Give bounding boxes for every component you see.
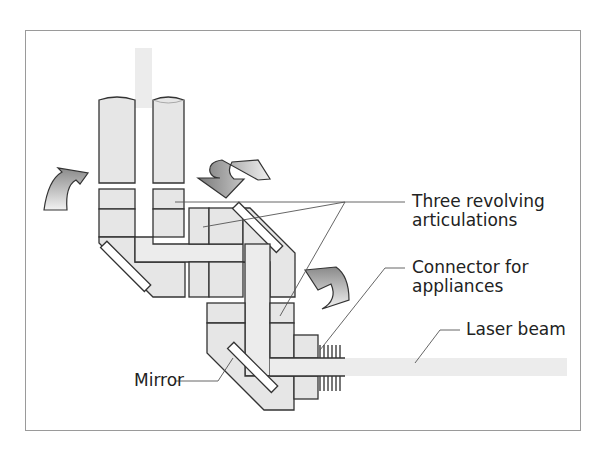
- top-cylinders: [99, 97, 184, 183]
- label-connector-line2: appliances: [412, 277, 528, 296]
- joint-1: [99, 189, 184, 237]
- rotation-arrow-icon: [44, 168, 88, 210]
- label-articulations-line2: articulations: [412, 211, 545, 230]
- label-articulations-line1: Three revolving: [412, 192, 545, 211]
- input-beam: [135, 48, 152, 108]
- label-connector-for-appliances: Connector for appliances: [412, 258, 528, 296]
- output-beam: [270, 358, 567, 376]
- rotation-arrow-icon: [198, 160, 270, 198]
- label-laser-beam: Laser beam: [466, 320, 566, 339]
- label-connector-line1: Connector for: [412, 258, 528, 277]
- rotation-arrow-icon: [305, 267, 349, 309]
- label-three-revolving-articulations: Three revolving articulations: [412, 192, 545, 230]
- label-mirror: Mirror: [134, 371, 184, 390]
